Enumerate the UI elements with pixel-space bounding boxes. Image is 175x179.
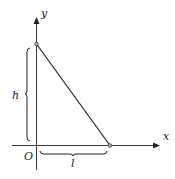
brace-l <box>40 151 107 156</box>
diagram: y x O h l <box>0 0 175 179</box>
brace-h <box>25 48 30 141</box>
diagram-canvas: y x O h l <box>0 0 175 179</box>
y-axis <box>34 17 40 170</box>
x-axis-arrow-icon <box>153 143 160 149</box>
x-axis-label: x <box>163 130 170 143</box>
origin-label: O <box>24 150 33 163</box>
l-label: l <box>71 157 75 170</box>
top-point <box>35 42 39 46</box>
bottom-point <box>108 144 112 148</box>
x-axis <box>12 143 160 149</box>
y-axis-arrow-icon <box>34 17 40 24</box>
h-label: h <box>12 89 19 102</box>
y-axis-label: y <box>40 7 48 20</box>
segment <box>37 44 111 146</box>
